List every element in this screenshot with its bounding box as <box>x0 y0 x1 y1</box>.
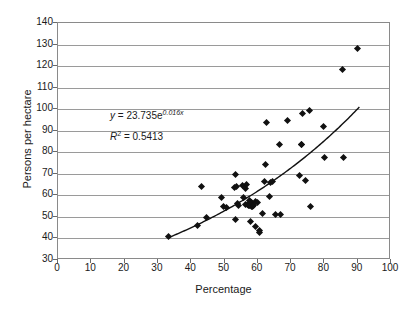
data-point <box>276 141 283 148</box>
x-axis-tick-label: 90 <box>342 263 372 273</box>
data-point <box>284 117 291 124</box>
x-axis-tick-label: 0 <box>42 263 72 273</box>
data-point <box>307 203 314 210</box>
y-axis-tick-label: 100 <box>19 103 53 113</box>
data-point <box>340 154 347 161</box>
data-point <box>339 66 346 73</box>
y-axis-tick-label: 90 <box>19 125 53 135</box>
data-points-layer <box>58 23 389 258</box>
data-point <box>277 211 284 218</box>
data-point <box>321 154 328 161</box>
y-axis-tick-label: 40 <box>19 232 53 242</box>
y-axis-tick-labels: 30405060708090100110120130140 <box>15 22 53 259</box>
y-axis-tick-label: 110 <box>19 82 53 92</box>
data-point <box>235 202 242 209</box>
data-point <box>306 107 313 114</box>
data-point <box>266 192 273 199</box>
x-axis-tick-label: 10 <box>75 263 105 273</box>
data-point <box>198 183 205 190</box>
x-axis-title: Percentage <box>57 283 390 295</box>
x-axis-tick-label: 70 <box>275 263 305 273</box>
x-axis-tick-label: 60 <box>242 263 272 273</box>
y-axis-tick-label: 70 <box>19 168 53 178</box>
data-point <box>262 161 269 168</box>
data-point <box>299 110 306 117</box>
data-point <box>296 172 303 179</box>
data-point <box>232 216 239 223</box>
data-point <box>320 123 327 130</box>
x-axis-tick-label: 80 <box>308 263 338 273</box>
x-axis-tick-label: 50 <box>209 263 239 273</box>
data-point <box>165 233 172 240</box>
data-point <box>218 194 225 201</box>
y-axis-tick-label: 130 <box>19 39 53 49</box>
x-axis-tick-label: 40 <box>175 263 205 273</box>
x-axis-tick-labels: 0102030405060708090100 <box>57 263 390 277</box>
data-point <box>194 222 201 229</box>
data-point <box>302 177 309 184</box>
data-point <box>354 45 361 52</box>
scatter-chart: Persons per hectare 30405060708090100110… <box>0 0 417 310</box>
y-axis-tick-label: 80 <box>19 146 53 156</box>
x-axis-tick-label: 30 <box>142 263 172 273</box>
y-axis-tick-label: 140 <box>19 17 53 27</box>
data-point <box>223 204 230 211</box>
y-axis-tick-label: 120 <box>19 60 53 70</box>
x-axis-tick-label: 20 <box>109 263 139 273</box>
plot-area: y = 23.735e0.016x R2 = 0.5413 <box>57 22 390 259</box>
data-point <box>298 141 305 148</box>
data-point <box>203 214 210 221</box>
data-point <box>259 209 266 216</box>
y-axis-tick-label: 50 <box>19 211 53 221</box>
x-axis-tick-label: 100 <box>375 263 405 273</box>
y-axis-tick-label: 60 <box>19 189 53 199</box>
data-point <box>263 119 270 126</box>
data-point <box>232 171 239 178</box>
